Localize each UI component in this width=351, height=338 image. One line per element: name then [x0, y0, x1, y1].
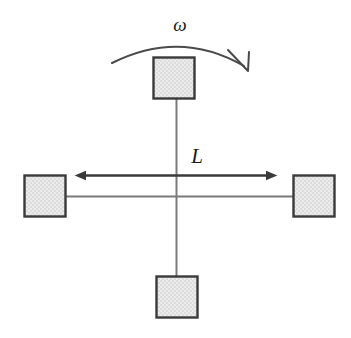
rotation-arrowhead-icon [228, 50, 249, 71]
rod-group [66, 99, 293, 277]
mass-block-group [25, 58, 335, 318]
length-label: L [190, 144, 203, 168]
angular-velocity-label: ω [173, 14, 186, 35]
diagram-canvas: ω L [0, 0, 351, 338]
bottom-block [157, 277, 198, 318]
left-block [25, 176, 66, 217]
physics-diagram-figure: ω L [0, 0, 351, 338]
right-block [294, 176, 335, 217]
top-block [154, 58, 195, 99]
